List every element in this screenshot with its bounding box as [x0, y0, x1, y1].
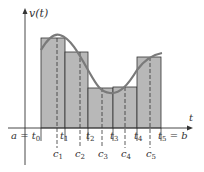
y-axis-label: v(t)	[29, 8, 48, 19]
x-axis-label: t	[189, 113, 193, 123]
partition-ticks	[41, 128, 161, 141]
label-t0: a = t0	[11, 131, 40, 143]
label-t5-suffix: = b	[167, 130, 188, 141]
label-t1-sub: 1	[64, 135, 68, 143]
label-t0-sub: 0	[36, 135, 40, 143]
diagram-graphic	[0, 0, 204, 172]
label-t5: t5 = b	[158, 131, 188, 143]
t-axis-arrow-icon	[187, 126, 193, 131]
label-t1: t1	[60, 131, 69, 143]
label-t2: t2	[86, 131, 95, 143]
riemann-sum-diagram: v(t) t a = t0 t1 t2 t3 t4 t5 = b c1 c2 c…	[0, 0, 204, 172]
rectangles	[41, 38, 161, 128]
label-t3: t3	[110, 131, 119, 143]
label-c1: c1	[53, 149, 63, 161]
label-c5: c5	[146, 149, 156, 161]
x-axis-label-text: t	[189, 112, 193, 123]
label-t4-sub: 4	[138, 135, 142, 143]
label-c3: c3	[98, 149, 108, 161]
label-c2-sub: 2	[81, 153, 85, 161]
label-c2: c2	[75, 149, 85, 161]
riemann-rectangle-1	[41, 38, 65, 128]
y-axis-arrow-icon	[23, 8, 28, 14]
label-t0-text: a = t	[11, 130, 36, 141]
label-t4: t4	[134, 131, 143, 143]
riemann-rectangle-5	[137, 57, 161, 128]
label-c1-sub: 1	[59, 153, 63, 161]
label-t2-sub: 2	[90, 135, 94, 143]
y-axis-label-text: v(t)	[29, 7, 48, 20]
label-t3-sub: 3	[114, 135, 118, 143]
label-c3-sub: 3	[104, 153, 108, 161]
label-c4-sub: 4	[127, 153, 131, 161]
label-c4: c4	[121, 149, 131, 161]
label-c5-sub: 5	[152, 153, 156, 161]
